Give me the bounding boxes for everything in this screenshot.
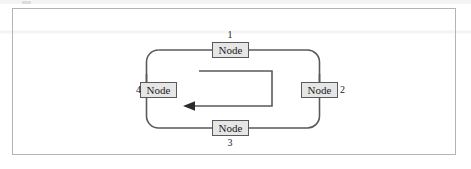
inner-flow-arrow-path xyxy=(192,71,272,106)
node-number-2: 2 xyxy=(340,84,354,96)
node-number-4: 4 xyxy=(127,84,141,96)
node-number-3: 3 xyxy=(223,137,237,149)
node-box-2[interactable]: Node xyxy=(301,82,338,98)
node-label-4: Node xyxy=(146,84,170,96)
node-box-1[interactable]: Node xyxy=(212,42,249,58)
node-box-4[interactable]: Node xyxy=(140,82,177,98)
inner-flow-arrowhead xyxy=(183,101,195,111)
ring-corner-top-right xyxy=(307,50,320,82)
ring-corner-bottom-right xyxy=(249,116,320,128)
node-label-3: Node xyxy=(218,122,242,134)
node-number-1: 1 xyxy=(223,29,237,41)
node-label-2: Node xyxy=(307,84,331,96)
node-box-3[interactable]: Node xyxy=(212,120,249,136)
node-label-1: Node xyxy=(218,44,242,56)
ring-corner-bottom-left xyxy=(147,116,213,128)
ring-corner-top-left xyxy=(147,50,159,82)
